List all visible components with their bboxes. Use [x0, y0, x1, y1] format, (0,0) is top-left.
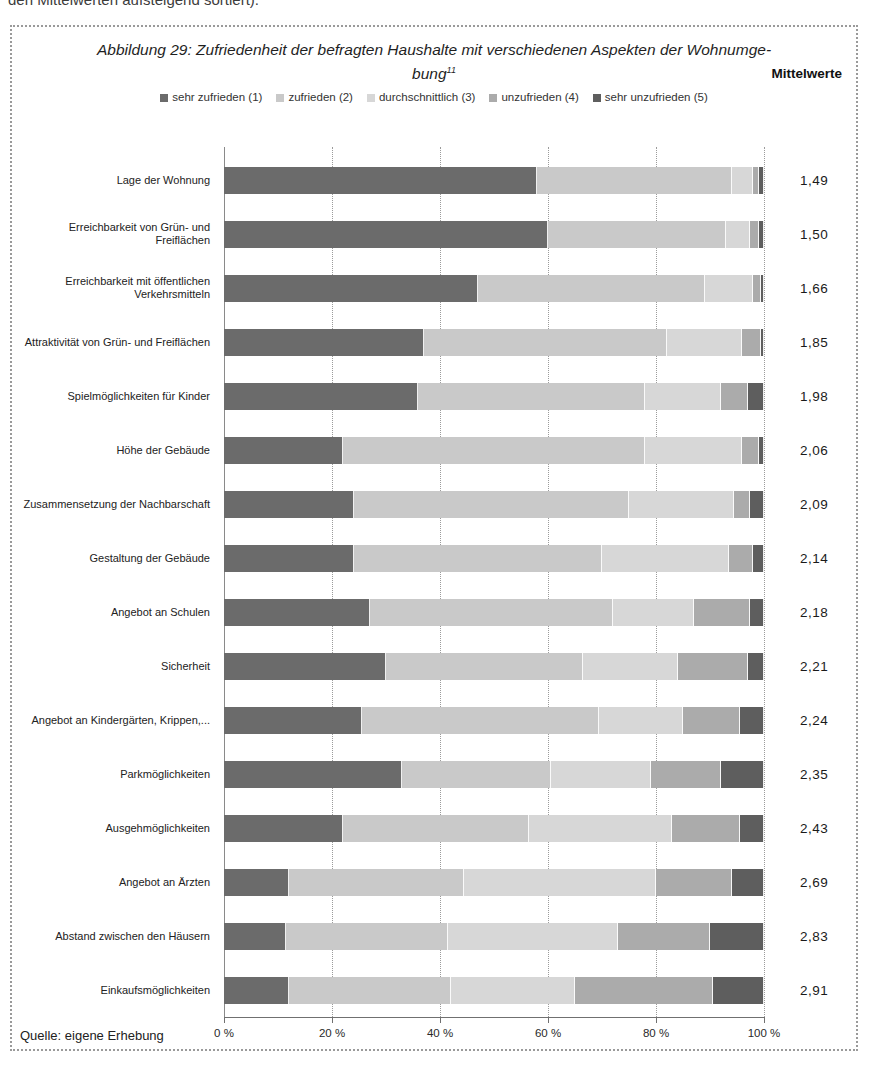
bar-segment [370, 599, 613, 626]
legend-swatch-icon [276, 94, 284, 102]
bar-segment [729, 545, 753, 572]
legend-item: sehr zufrieden (1) [160, 91, 262, 103]
stacked-bar [224, 923, 764, 950]
bar-segment [759, 221, 764, 248]
bar-segment [478, 275, 705, 302]
legend-item: zufrieden (2) [276, 91, 353, 103]
bar-segment [224, 653, 386, 680]
bar-segment [548, 221, 726, 248]
bar-segment [748, 653, 764, 680]
axis-tick-label: 40 % [410, 1027, 470, 1039]
stacked-bar [224, 707, 764, 734]
legend-swatch-icon [160, 94, 168, 102]
mean-value: 2,83 [764, 929, 856, 944]
bar-segment [750, 599, 764, 626]
bar-segment [705, 275, 754, 302]
legend-swatch-icon [367, 94, 375, 102]
bar-segment [224, 599, 370, 626]
caption-line-2: bung [412, 65, 446, 82]
stacked-bar [224, 491, 764, 518]
bar-segment [748, 383, 764, 410]
mean-value: 1,50 [764, 227, 856, 242]
stacked-bar [224, 653, 764, 680]
mean-value: 1,49 [764, 173, 856, 188]
legend-swatch-icon [593, 94, 601, 102]
cropped-text: den Mittelwerten aufsteigend sortiert). [8, 0, 528, 9]
legend-swatch-icon [489, 94, 497, 102]
stacked-bar [224, 275, 764, 302]
bar-segment [583, 653, 678, 680]
bar-rows: Lage der Wohnung1,49Erreichbarkeit von G… [12, 153, 856, 1017]
bar-segment [678, 653, 748, 680]
legend-label: unzufrieden (4) [501, 91, 578, 103]
bar-row: Höhe der Gebäude2,06 [12, 423, 856, 477]
bar-row: Gestaltung der Gebäude2,14 [12, 531, 856, 585]
footnote-marker: 11 [447, 65, 456, 75]
bar-segment [753, 545, 764, 572]
mean-value: 1,66 [764, 281, 856, 296]
mean-value: 2,09 [764, 497, 856, 512]
bar-segment [551, 761, 651, 788]
category-label: Gestaltung der Gebäude [12, 552, 224, 565]
stacked-bar-chart: Lage der Wohnung1,49Erreichbarkeit von G… [12, 147, 856, 1052]
bar-segment [667, 329, 743, 356]
figure-box: Abbildung 29: Zufriedenheit der befragte… [10, 25, 858, 1051]
bar-segment [645, 383, 721, 410]
bar-segment [759, 437, 764, 464]
chart-legend: sehr zufrieden (1)zufrieden (2)durchschn… [12, 91, 856, 103]
bar-segment [286, 923, 448, 950]
bar-segment [618, 923, 710, 950]
category-label: Abstand zwischen den Häusern [12, 930, 224, 943]
bar-segment [694, 599, 751, 626]
bar-row: Erreichbarkeit mit öffentlichen Verkehrs… [12, 261, 856, 315]
axis-tick-label: 0 % [194, 1027, 254, 1039]
bar-segment [713, 977, 764, 1004]
bar-segment [448, 923, 618, 950]
bar-row: Ausgehmöglichkeiten2,43 [12, 801, 856, 855]
bar-segment [224, 977, 289, 1004]
bar-segment [224, 545, 354, 572]
category-label: Zusammensetzung der Nachbarschaft [12, 498, 224, 511]
bar-segment [645, 437, 742, 464]
mean-value: 2,06 [764, 443, 856, 458]
bar-segment [734, 491, 750, 518]
legend-item: durchschnittlich (3) [367, 91, 476, 103]
mean-value: 1,85 [764, 335, 856, 350]
mean-value: 2,18 [764, 605, 856, 620]
bar-segment [742, 437, 758, 464]
bar-row: Angebot an Schulen2,18 [12, 585, 856, 639]
mean-value: 2,21 [764, 659, 856, 674]
axis-tick [440, 1017, 441, 1023]
bar-row: Angebot an Ärzten2,69 [12, 855, 856, 909]
stacked-bar [224, 869, 764, 896]
mean-value: 2,14 [764, 551, 856, 566]
bar-segment [753, 275, 761, 302]
bar-segment [740, 707, 764, 734]
mean-value: 2,43 [764, 821, 856, 836]
mean-value: 2,35 [764, 767, 856, 782]
category-label: Angebot an Kindergärten, Krippen,... [12, 714, 224, 727]
bar-segment [602, 545, 729, 572]
stacked-bar [224, 815, 764, 842]
cropped-text-line: den Mittelwerten aufsteigend sortiert). [8, 0, 528, 9]
legend-item: sehr unzufrieden (5) [593, 91, 708, 103]
bar-segment [656, 869, 732, 896]
x-axis-line [224, 1017, 765, 1018]
means-column-header: Mittelwerte [771, 66, 842, 81]
bar-segment [721, 761, 764, 788]
bar-segment [651, 761, 721, 788]
category-label: Parkmöglichkeiten [12, 768, 224, 781]
bar-segment [289, 977, 451, 1004]
bar-segment [418, 383, 645, 410]
bar-segment [224, 923, 286, 950]
stacked-bar [224, 545, 764, 572]
bar-segment [759, 167, 764, 194]
axis-tick-label: 20 % [302, 1027, 362, 1039]
bar-row: Erreichbarkeit von Grün- und Freiflächen… [12, 207, 856, 261]
legend-label: sehr unzufrieden (5) [605, 91, 708, 103]
bar-row: Parkmöglichkeiten2,35 [12, 747, 856, 801]
bar-segment [761, 275, 764, 302]
category-label: Höhe der Gebäude [12, 444, 224, 457]
mean-value: 2,24 [764, 713, 856, 728]
stacked-bar [224, 167, 764, 194]
